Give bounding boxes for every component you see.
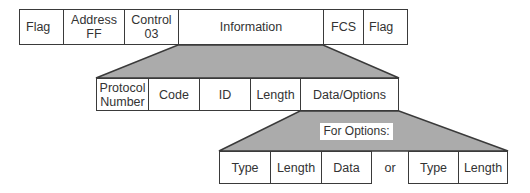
flag-field-end: Flag: [363, 9, 408, 45]
information-breakdown-row: Protocol Number Code ID Length Data/Opti…: [96, 78, 399, 111]
option-data-field: Data: [321, 151, 371, 184]
control-field: Control 03: [124, 9, 178, 45]
data-options-field: Data/Options: [300, 78, 399, 111]
or-separator: or: [371, 151, 408, 184]
protocol-number-field: Protocol Number: [96, 78, 148, 111]
alt-option-length-field: Length: [458, 151, 508, 184]
address-field: Address FF: [63, 9, 124, 45]
code-field: Code: [148, 78, 199, 111]
length-field: Length: [250, 78, 300, 111]
for-options-label: For Options:: [320, 123, 393, 140]
ppp-frame-row: Flag Address FF Control 03 Information F…: [19, 9, 408, 45]
options-breakdown-row: Type Length Data or Type Length: [219, 151, 508, 184]
id-field: ID: [199, 78, 250, 111]
information-expansion-trapezoid: [96, 45, 399, 78]
alt-option-type-field: Type: [408, 151, 458, 184]
flag-field: Flag: [19, 9, 63, 45]
option-length-field: Length: [270, 151, 321, 184]
option-type-field: Type: [219, 151, 270, 184]
information-field: Information: [178, 9, 323, 45]
fcs-field: FCS: [323, 9, 363, 45]
